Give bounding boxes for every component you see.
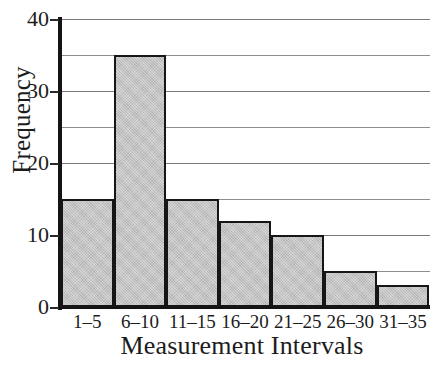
x-tick-label-26-30: 26–30 — [324, 312, 377, 331]
y-tick-10 — [50, 235, 59, 237]
histogram-chart: Frequency 010203040 1–56–1011–1516–2021–… — [0, 0, 445, 365]
plot-area — [61, 19, 430, 307]
y-tick-30 — [50, 91, 59, 93]
y-tick-label-10: 10 — [0, 224, 49, 246]
x-tick-label-6-10: 6–10 — [114, 312, 167, 331]
bar-21-25 — [271, 235, 324, 307]
y-tick-0 — [50, 307, 59, 309]
bar-11-15 — [166, 199, 219, 307]
x-tick-label-1-5: 1–5 — [61, 312, 114, 331]
y-tick-label-20: 20 — [0, 152, 49, 174]
y-axis-title: Frequency — [8, 20, 36, 220]
bar-16-20 — [219, 221, 272, 307]
bars-group — [61, 19, 430, 307]
y-tick-40 — [50, 19, 59, 21]
x-tick-label-11-15: 11–15 — [166, 312, 219, 331]
y-tick-20 — [50, 163, 59, 165]
y-tick-label-30: 30 — [0, 80, 49, 102]
bar-31-35 — [377, 285, 430, 307]
bar-6-10 — [114, 55, 167, 307]
x-tick-label-16-20: 16–20 — [219, 312, 272, 331]
x-axis-title: Measurement Intervals — [52, 331, 432, 361]
y-tick-label-0: 0 — [0, 296, 49, 318]
x-tick-label-21-25: 21–25 — [271, 312, 324, 331]
bar-26-30 — [324, 271, 377, 307]
bar-1-5 — [61, 199, 114, 307]
y-tick-label-40: 40 — [0, 8, 49, 30]
x-tick-label-31-35: 31–35 — [377, 312, 430, 331]
